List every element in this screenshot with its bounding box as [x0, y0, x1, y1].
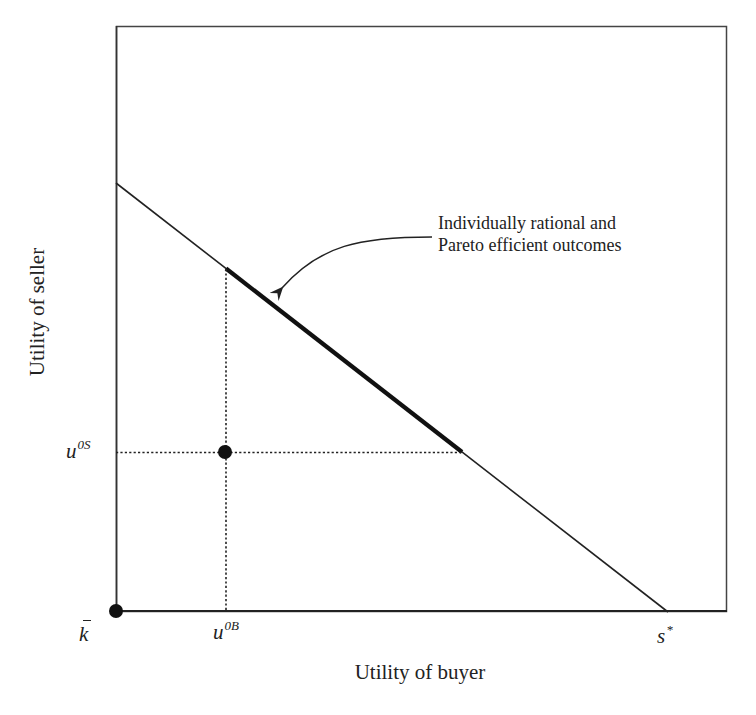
tick-label-s-star: s*: [657, 622, 673, 649]
y-axis-title: Utility of seller: [25, 248, 50, 376]
origin-point: [109, 604, 123, 618]
x-axis-title: Utility of buyer: [355, 660, 486, 685]
annotation-line-1: Individually rational and: [438, 212, 622, 234]
tick-label-u0b: u0B: [213, 618, 239, 645]
pareto-annotation: Individually rational and Pareto efficie…: [438, 212, 622, 256]
annotation-arrow-icon: [282, 237, 432, 288]
tick-label-k-bar: k: [79, 622, 88, 647]
plot-frame: [117, 27, 727, 612]
utility-possibility-diagram: [0, 0, 756, 715]
pareto-efficient-segment: [226, 269, 462, 453]
annotation-line-2: Pareto efficient outcomes: [438, 234, 622, 256]
bar-accent: [83, 620, 91, 621]
tick-label-u0s: u0S: [66, 437, 91, 464]
disagreement-point: [218, 445, 232, 459]
